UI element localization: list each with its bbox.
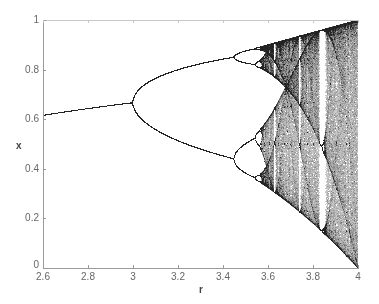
x-tick-label: 2.8 [73,272,103,282]
x-tick-top [358,20,359,23]
x-tick [88,265,89,268]
y-tick [43,70,46,71]
y-tick [43,218,46,219]
plot-area [43,20,358,268]
bifurcation-chart: 00.20.40.60.81 2.62.833.23.43.63.84 x r [0,0,379,304]
y-tick [43,268,46,269]
x-tick [268,265,269,268]
y-tick-label: 0.2 [9,213,39,223]
x-tick-label: 3.6 [253,272,283,282]
y-tick-label: 0 [9,260,39,270]
y-tick-label: 0.8 [9,65,39,75]
x-tick-label: 3 [118,272,148,282]
top-axis-line [43,20,359,21]
x-tick-label: 4 [343,272,373,282]
x-tick [223,265,224,268]
y-axis-line [43,20,44,269]
x-tick [313,265,314,268]
x-tick [43,265,44,268]
y-tick-label: 0.4 [9,164,39,174]
x-tick-top [223,20,224,23]
x-tick-top [178,20,179,23]
x-tick [178,265,179,268]
x-tick-label: 2.6 [28,272,58,282]
x-tick-top [43,20,44,23]
x-tick-top [133,20,134,23]
x-axis-title: r [199,284,203,295]
x-tick-top [88,20,89,23]
x-tick [133,265,134,268]
y-axis-title: x [16,140,22,151]
y-tick [43,119,46,120]
x-tick-label: 3.2 [163,272,193,282]
y-tick-label: 1 [9,15,39,25]
y-tick-label: 0.6 [9,114,39,124]
x-axis-line [43,268,359,269]
x-tick-label: 3.8 [298,272,328,282]
y-tick [43,169,46,170]
x-tick-label: 3.4 [208,272,238,282]
x-tick [358,265,359,268]
x-tick-top [313,20,314,23]
x-tick-top [268,20,269,23]
